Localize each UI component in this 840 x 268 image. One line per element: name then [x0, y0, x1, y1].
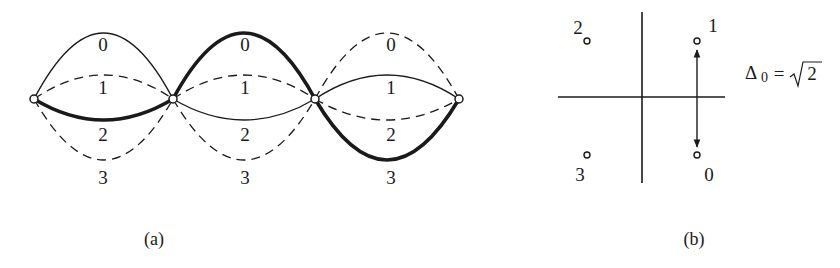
trellis-node	[30, 95, 38, 103]
distance-formula: Δ 0 = 2	[745, 62, 822, 86]
branch-label: 0	[240, 34, 250, 55]
trellis-node	[311, 95, 319, 103]
branch-label: 0	[98, 34, 108, 55]
highlighted-branch	[34, 99, 173, 120]
point-label: 0	[704, 164, 714, 185]
branch-label: 3	[386, 167, 396, 188]
constellation-point	[584, 152, 590, 158]
point-label: 2	[573, 17, 583, 38]
constellation-point	[584, 38, 590, 44]
branch-label: 0	[386, 34, 396, 55]
branch-label: 3	[98, 167, 108, 188]
branch-label: 2	[386, 124, 396, 145]
trellis-branch	[173, 99, 315, 120]
trellis-node	[169, 95, 177, 103]
branch-label: 1	[240, 77, 250, 98]
branch-label: 2	[98, 124, 108, 145]
constellation-point	[694, 38, 700, 44]
point-label: 1	[708, 15, 718, 36]
caption-b: (b)	[684, 229, 705, 250]
point-label: 3	[575, 164, 585, 185]
constellation-panel: 2 1 3 0 Δ 0 = 2	[558, 12, 822, 185]
trellis-node	[455, 95, 463, 103]
branch-label: 1	[98, 77, 108, 98]
trellis-branch	[315, 99, 459, 120]
delta-subscript: 0	[761, 70, 768, 85]
branch-label: 3	[240, 167, 250, 188]
constellation-point	[694, 152, 700, 158]
sqrt-icon	[790, 62, 822, 86]
equals-sign: =	[774, 63, 785, 84]
caption-a: (a)	[144, 229, 164, 250]
branch-label: 1	[386, 77, 396, 98]
radicand: 2	[807, 63, 817, 84]
delta-symbol: Δ	[745, 62, 757, 83]
figure: 0 1 2 3 0 1 2 3 0 1 2 3 (a) 2 1 3 0 Δ 0 …	[0, 0, 840, 268]
branch-label: 2	[240, 124, 250, 145]
